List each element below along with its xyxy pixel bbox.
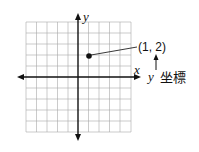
y-axis-label: y [83, 10, 89, 23]
annotation-text: 坐標 [160, 71, 186, 84]
up-arrow-icon [154, 54, 159, 70]
leader-line [91, 47, 137, 55]
point-label: (1, 2) [138, 41, 166, 53]
point-marker [86, 53, 92, 59]
annotation-prefix: y [148, 70, 154, 83]
x-axis [17, 74, 141, 80]
x-axis-label: x [134, 63, 140, 76]
